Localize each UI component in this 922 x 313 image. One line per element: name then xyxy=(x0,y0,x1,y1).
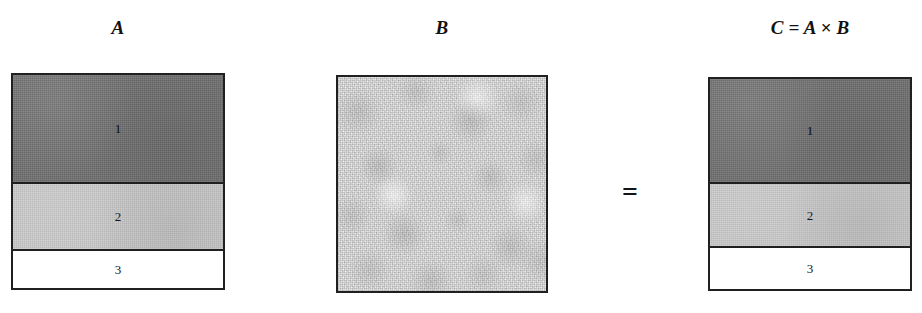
matrix-a-band-3-label: 3 xyxy=(115,263,122,276)
matrix-a-band-1-label: 1 xyxy=(115,122,122,135)
matrix-a-band-2-label: 2 xyxy=(115,210,122,223)
matrix-a-caption: A xyxy=(0,18,236,37)
matrix-c-band-1: 1 xyxy=(710,79,910,184)
matrix-b-caption: B xyxy=(336,18,548,37)
matrix-c-caption: C = A × B xyxy=(700,18,920,37)
matrix-a-band-2: 2 xyxy=(13,184,223,251)
matrix-c: 1 2 3 xyxy=(708,77,912,291)
matrix-c-band-2-label: 2 xyxy=(807,209,814,222)
matrix-a-band-3: 3 xyxy=(13,251,223,288)
matrix-a-band-1: 1 xyxy=(13,75,223,184)
matrix-b-noise-texture xyxy=(338,77,546,291)
matrix-c-band-3: 3 xyxy=(710,248,910,289)
matrix-c-band-3-label: 3 xyxy=(807,262,814,275)
matrix-c-band-1-label: 1 xyxy=(807,124,814,137)
equals-operator: = xyxy=(608,174,652,210)
matrix-a: 1 2 3 xyxy=(11,73,225,290)
matrix-c-band-2: 2 xyxy=(710,184,910,248)
matrix-b xyxy=(336,75,548,293)
figure-canvas: A 1 2 3 B = C = A × B 1 2 3 xyxy=(0,0,922,313)
